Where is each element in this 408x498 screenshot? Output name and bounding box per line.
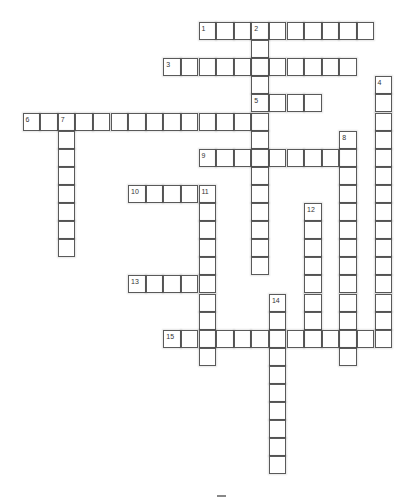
crossword-cell[interactable]: [234, 330, 252, 348]
crossword-cell[interactable]: [216, 330, 234, 348]
crossword-cell[interactable]: [251, 113, 269, 131]
crossword-cell[interactable]: [58, 239, 76, 257]
crossword-cell[interactable]: [181, 330, 199, 348]
crossword-cell[interactable]: [199, 275, 217, 293]
crossword-cell[interactable]: [216, 58, 234, 76]
crossword-cell[interactable]: [251, 330, 269, 348]
crossword-cell[interactable]: [287, 94, 305, 112]
crossword-cell[interactable]: [251, 131, 269, 149]
crossword-cell[interactable]: [375, 131, 393, 149]
crossword-cell[interactable]: [199, 257, 217, 275]
crossword-cell[interactable]: [234, 149, 252, 167]
crossword-cell[interactable]: 4: [375, 76, 393, 94]
crossword-cell[interactable]: [199, 239, 217, 257]
crossword-cell[interactable]: [304, 275, 322, 293]
crossword-cell[interactable]: [251, 221, 269, 239]
crossword-cell[interactable]: [269, 384, 287, 402]
crossword-cell[interactable]: [322, 149, 340, 167]
crossword-cell[interactable]: 6: [23, 113, 41, 131]
crossword-cell[interactable]: [58, 221, 76, 239]
crossword-cell[interactable]: [234, 58, 252, 76]
crossword-cell[interactable]: [304, 294, 322, 312]
crossword-cell[interactable]: [375, 185, 393, 203]
crossword-cell[interactable]: [181, 185, 199, 203]
crossword-cell[interactable]: [375, 203, 393, 221]
crossword-cell[interactable]: [339, 185, 357, 203]
crossword-cell[interactable]: [375, 312, 393, 330]
crossword-cell[interactable]: 13: [128, 275, 146, 293]
crossword-cell[interactable]: [199, 312, 217, 330]
crossword-cell[interactable]: [304, 257, 322, 275]
crossword-cell[interactable]: [322, 330, 340, 348]
crossword-cell[interactable]: [287, 22, 305, 40]
crossword-cell[interactable]: [375, 294, 393, 312]
crossword-cell[interactable]: [339, 22, 357, 40]
crossword-cell[interactable]: [146, 113, 164, 131]
crossword-cell[interactable]: [339, 239, 357, 257]
crossword-cell[interactable]: [216, 22, 234, 40]
crossword-cell[interactable]: [58, 203, 76, 221]
crossword-cell[interactable]: [269, 330, 287, 348]
crossword-cell[interactable]: [251, 149, 269, 167]
crossword-cell[interactable]: [93, 113, 111, 131]
crossword-cell[interactable]: 12: [304, 203, 322, 221]
crossword-cell[interactable]: [287, 149, 305, 167]
crossword-cell[interactable]: [339, 330, 357, 348]
crossword-cell[interactable]: 1: [199, 22, 217, 40]
crossword-cell[interactable]: [269, 456, 287, 474]
crossword-cell[interactable]: 10: [128, 185, 146, 203]
crossword-cell[interactable]: [269, 312, 287, 330]
crossword-cell[interactable]: [111, 113, 129, 131]
crossword-cell[interactable]: [199, 294, 217, 312]
crossword-cell[interactable]: [163, 113, 181, 131]
crossword-cell[interactable]: [339, 275, 357, 293]
crossword-cell[interactable]: [58, 131, 76, 149]
crossword-cell[interactable]: [269, 94, 287, 112]
crossword-cell[interactable]: [199, 58, 217, 76]
crossword-cell[interactable]: [163, 185, 181, 203]
crossword-cell[interactable]: 15: [163, 330, 181, 348]
crossword-cell[interactable]: 9: [199, 149, 217, 167]
crossword-cell[interactable]: [357, 22, 375, 40]
crossword-cell[interactable]: [304, 149, 322, 167]
crossword-cell[interactable]: [58, 167, 76, 185]
crossword-cell[interactable]: 5: [251, 94, 269, 112]
crossword-cell[interactable]: [322, 22, 340, 40]
crossword-cell[interactable]: [339, 58, 357, 76]
crossword-cell[interactable]: [251, 76, 269, 94]
crossword-cell[interactable]: [322, 58, 340, 76]
crossword-cell[interactable]: [216, 113, 234, 131]
crossword-cell[interactable]: [339, 257, 357, 275]
crossword-cell[interactable]: [181, 275, 199, 293]
crossword-cell[interactable]: [181, 113, 199, 131]
crossword-cell[interactable]: [375, 167, 393, 185]
crossword-cell[interactable]: [40, 113, 58, 131]
crossword-cell[interactable]: [269, 438, 287, 456]
crossword-cell[interactable]: [339, 149, 357, 167]
crossword-cell[interactable]: [269, 149, 287, 167]
crossword-cell[interactable]: 3: [163, 58, 181, 76]
crossword-cell[interactable]: [339, 294, 357, 312]
crossword-cell[interactable]: [251, 185, 269, 203]
crossword-cell[interactable]: [234, 113, 252, 131]
crossword-cell[interactable]: [251, 239, 269, 257]
crossword-cell[interactable]: [375, 149, 393, 167]
crossword-cell[interactable]: [304, 94, 322, 112]
crossword-cell[interactable]: [234, 22, 252, 40]
crossword-cell[interactable]: [269, 420, 287, 438]
crossword-cell[interactable]: 7: [58, 113, 76, 131]
crossword-cell[interactable]: [199, 330, 217, 348]
crossword-cell[interactable]: 8: [339, 131, 357, 149]
crossword-cell[interactable]: [339, 221, 357, 239]
crossword-cell[interactable]: [146, 185, 164, 203]
crossword-cell[interactable]: [216, 149, 234, 167]
crossword-cell[interactable]: [199, 221, 217, 239]
crossword-cell[interactable]: [146, 275, 164, 293]
crossword-cell[interactable]: [199, 348, 217, 366]
crossword-cell[interactable]: [304, 239, 322, 257]
crossword-cell[interactable]: [375, 221, 393, 239]
crossword-cell[interactable]: [269, 22, 287, 40]
crossword-cell[interactable]: 2: [251, 22, 269, 40]
crossword-cell[interactable]: [304, 221, 322, 239]
crossword-cell[interactable]: [375, 330, 393, 348]
